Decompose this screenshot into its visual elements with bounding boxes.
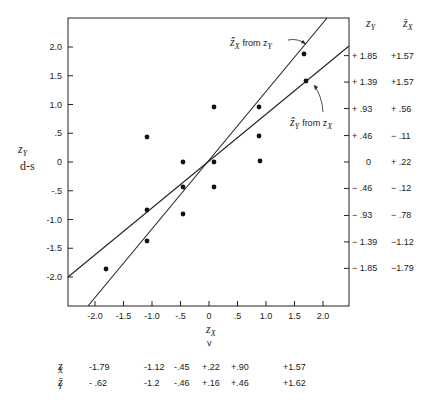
y-axis-note: d-s bbox=[20, 159, 35, 173]
x-axis-label: zX bbox=[205, 322, 217, 338]
y-tick-label: .5 bbox=[54, 128, 62, 138]
y-tick-label: -1.0 bbox=[46, 215, 62, 225]
x-axis-ticks: -2.0-1.5-1.0-.50.51.01.52.0 bbox=[87, 301, 329, 321]
right-table-zx-bar-value: − .12 bbox=[391, 183, 411, 193]
data-point bbox=[145, 208, 150, 213]
bottom-zx-value: -1.12 bbox=[144, 362, 165, 372]
bottom-zx-value: -.45 bbox=[174, 362, 190, 372]
bottom-row-zx-label: zX bbox=[58, 359, 63, 375]
line-zx-from-zy bbox=[88, 18, 327, 306]
data-point bbox=[212, 105, 217, 110]
x-tick-label: -1.0 bbox=[144, 311, 160, 321]
right-table-zx-bar-value: − .78 bbox=[391, 210, 411, 220]
right-table-zy-value: − 1.85 bbox=[352, 263, 377, 273]
right-table-zy-value: + 1.85 bbox=[352, 51, 377, 61]
bottom-zx-value: +1.57 bbox=[283, 362, 306, 372]
data-point bbox=[302, 52, 307, 57]
arrowhead-zy-from-zx bbox=[314, 85, 318, 90]
x-tick-label: .5 bbox=[234, 311, 242, 321]
y-tick-label: -1.5 bbox=[46, 243, 62, 253]
x-tick-label: -2.0 bbox=[87, 311, 103, 321]
bottom-zy-value: -1.2 bbox=[144, 378, 160, 388]
bottom-zy-value: +.46 bbox=[231, 378, 249, 388]
right-table-zx-bar-value: + .22 bbox=[391, 157, 411, 167]
y-tick-label: -2.0 bbox=[46, 272, 62, 282]
y-tick-label: 1.5 bbox=[49, 71, 62, 81]
right-table-zx-bar-value: +1.57 bbox=[391, 51, 414, 61]
bottom-zy-value: -.46 bbox=[174, 378, 190, 388]
bottom-zx-value: -1.79 bbox=[89, 362, 110, 372]
data-point bbox=[181, 212, 186, 217]
y-axis-ticks: 2.01.51.0.50-.5-1.0-1.5-2.0 bbox=[46, 42, 73, 282]
x-tick-label: 0 bbox=[206, 311, 211, 321]
right-header-zy: zY bbox=[365, 16, 377, 32]
data-point bbox=[212, 185, 217, 190]
right-table-zx-bar-value: −1.12 bbox=[391, 237, 414, 247]
data-point bbox=[181, 160, 186, 165]
right-table-zy-value: + .93 bbox=[352, 104, 372, 114]
right-table-zy-value: + 1.39 bbox=[352, 77, 377, 87]
regression-lines bbox=[68, 18, 349, 306]
x-tick-label: -.5 bbox=[175, 311, 186, 321]
right-table-zy-value: + .46 bbox=[352, 131, 372, 141]
right-table-zx-bar-value: +1.57 bbox=[391, 77, 414, 87]
right-axis-ticks: + 1.85+1.57+ 1.39+1.57+ .93+ .56+ .46− .… bbox=[344, 51, 414, 274]
data-point bbox=[258, 159, 263, 164]
data-point bbox=[145, 239, 150, 244]
right-table-zx-bar-value: −1.79 bbox=[391, 263, 414, 273]
data-points bbox=[104, 52, 309, 272]
bottom-zx-value: +.22 bbox=[202, 362, 220, 372]
right-table-zy-value: 0 bbox=[366, 157, 371, 167]
bottom-zy-value: +1.62 bbox=[283, 378, 306, 388]
right-table-zy-value: − .46 bbox=[352, 183, 372, 193]
data-point bbox=[257, 105, 262, 110]
x-axis-note: v bbox=[207, 338, 212, 348]
y-tick-label: 2.0 bbox=[49, 42, 62, 52]
x-tick-label: 1.5 bbox=[288, 311, 301, 321]
right-table-zx-bar-value: + .56 bbox=[391, 104, 411, 114]
y-tick-label: -.5 bbox=[51, 186, 62, 196]
data-point bbox=[257, 134, 262, 139]
right-header-zx-bar: z̄X bbox=[402, 16, 414, 32]
y-tick-label: 0 bbox=[57, 157, 62, 167]
right-table-zy-value: − 1.39 bbox=[352, 237, 377, 247]
data-point bbox=[304, 79, 309, 84]
x-tick-label: 2.0 bbox=[317, 311, 330, 321]
arrowhead-zx-from-zy bbox=[301, 40, 306, 44]
bottom-zy-value: - .62 bbox=[89, 378, 107, 388]
x-tick-label: 1.0 bbox=[260, 311, 273, 321]
data-point bbox=[212, 160, 217, 165]
bottom-zy-value: +.16 bbox=[202, 378, 220, 388]
bottom-zx-value: +.90 bbox=[231, 362, 249, 372]
data-point bbox=[181, 185, 186, 190]
bottom-row-zy-bar-label: z̄Y bbox=[58, 375, 62, 391]
data-point bbox=[104, 267, 109, 272]
y-axis-label: zY bbox=[17, 142, 29, 158]
data-point bbox=[145, 135, 150, 140]
line-label-zx-from-zy: ẑXfrom zY bbox=[229, 35, 274, 51]
right-table-zy-value: − .93 bbox=[352, 210, 372, 220]
scatter-chart: 2.01.51.0.50-.5-1.0-1.5-2.0 -2.0-1.5-1.0… bbox=[0, 0, 438, 400]
y-tick-label: 1.0 bbox=[49, 100, 62, 110]
x-tick-label: -1.5 bbox=[116, 311, 132, 321]
right-table-zx-bar-value: − .11 bbox=[391, 131, 411, 141]
line-label-zy-from-zx: ẑYfrom zX bbox=[289, 115, 333, 131]
